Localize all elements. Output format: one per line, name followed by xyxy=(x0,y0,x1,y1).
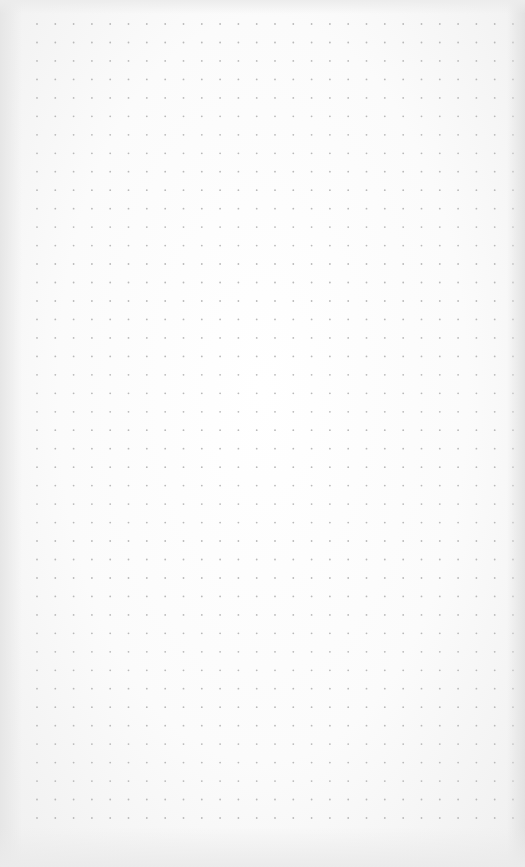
grid-dot xyxy=(494,817,496,819)
grid-dot xyxy=(366,596,368,598)
grid-dot xyxy=(36,97,38,99)
grid-dot xyxy=(366,411,368,413)
grid-dot xyxy=(476,780,478,782)
grid-dot xyxy=(457,762,459,764)
grid-dot xyxy=(109,540,111,542)
grid-dot xyxy=(439,263,441,265)
grid-dot xyxy=(402,337,404,339)
grid-dot xyxy=(164,762,166,764)
grid-dot xyxy=(73,134,75,136)
grid-dot xyxy=(146,374,148,376)
grid-dot xyxy=(384,42,386,44)
grid-dot xyxy=(512,189,514,191)
grid-dot xyxy=(512,97,514,99)
grid-dot xyxy=(347,632,349,634)
grid-dot xyxy=(494,743,496,745)
grid-dot xyxy=(421,540,423,542)
grid-dot xyxy=(421,208,423,210)
grid-dot xyxy=(238,97,240,99)
grid-dot xyxy=(421,189,423,191)
grid-dot xyxy=(201,208,203,210)
grid-dot xyxy=(439,762,441,764)
grid-dot xyxy=(457,448,459,450)
grid-dot xyxy=(91,780,93,782)
grid-dot xyxy=(494,411,496,413)
grid-dot xyxy=(201,97,203,99)
grid-dot xyxy=(109,762,111,764)
grid-dot xyxy=(329,651,331,653)
grid-dot xyxy=(512,60,514,62)
grid-dot xyxy=(91,319,93,321)
grid-dot xyxy=(384,282,386,284)
grid-dot xyxy=(329,337,331,339)
grid-dot xyxy=(274,448,276,450)
grid-dot xyxy=(36,485,38,487)
grid-dot xyxy=(421,688,423,690)
grid-dot xyxy=(164,23,166,25)
grid-dot xyxy=(109,503,111,505)
grid-dot xyxy=(402,23,404,25)
grid-dot xyxy=(366,226,368,228)
grid-dot xyxy=(109,632,111,634)
grid-dot xyxy=(73,540,75,542)
grid-dot xyxy=(256,152,258,154)
grid-dot xyxy=(128,23,130,25)
grid-dot xyxy=(476,817,478,819)
grid-dot xyxy=(347,356,349,358)
grid-dot xyxy=(384,540,386,542)
grid-dot xyxy=(402,706,404,708)
grid-dot xyxy=(219,651,221,653)
grid-dot xyxy=(128,411,130,413)
grid-dot xyxy=(329,614,331,616)
grid-dot xyxy=(329,429,331,431)
grid-dot xyxy=(384,356,386,358)
grid-dot xyxy=(329,152,331,154)
grid-dot xyxy=(256,171,258,173)
grid-dot xyxy=(512,669,514,671)
grid-dot xyxy=(476,97,478,99)
grid-dot xyxy=(91,42,93,44)
grid-dot xyxy=(494,632,496,634)
grid-dot xyxy=(329,780,331,782)
grid-dot xyxy=(421,23,423,25)
grid-dot xyxy=(91,762,93,764)
grid-dot xyxy=(183,115,185,117)
grid-dot xyxy=(201,688,203,690)
grid-dot xyxy=(238,559,240,561)
grid-dot xyxy=(73,577,75,579)
grid-dot xyxy=(329,97,331,99)
grid-dot xyxy=(476,374,478,376)
grid-dot xyxy=(183,23,185,25)
grid-dot xyxy=(54,559,56,561)
grid-dot xyxy=(366,42,368,44)
grid-dot xyxy=(183,263,185,265)
grid-dot xyxy=(292,392,294,394)
grid-dot xyxy=(238,208,240,210)
grid-dot xyxy=(238,503,240,505)
grid-dot xyxy=(274,245,276,247)
grid-dot xyxy=(292,263,294,265)
grid-dot xyxy=(274,60,276,62)
grid-dot xyxy=(384,706,386,708)
grid-dot xyxy=(292,559,294,561)
grid-dot xyxy=(128,522,130,524)
grid-dot xyxy=(238,632,240,634)
grid-dot xyxy=(421,134,423,136)
grid-dot xyxy=(457,152,459,154)
grid-dot xyxy=(183,466,185,468)
grid-dot xyxy=(292,42,294,44)
grid-dot xyxy=(494,503,496,505)
grid-dot xyxy=(366,300,368,302)
grid-dot xyxy=(292,725,294,727)
grid-dot xyxy=(128,669,130,671)
grid-dot xyxy=(402,817,404,819)
grid-dot xyxy=(439,115,441,117)
grid-dot xyxy=(274,97,276,99)
grid-dot xyxy=(164,503,166,505)
grid-dot xyxy=(347,392,349,394)
grid-dot xyxy=(238,540,240,542)
grid-dot xyxy=(109,725,111,727)
grid-dot xyxy=(421,152,423,154)
grid-dot xyxy=(292,577,294,579)
grid-dot xyxy=(347,42,349,44)
